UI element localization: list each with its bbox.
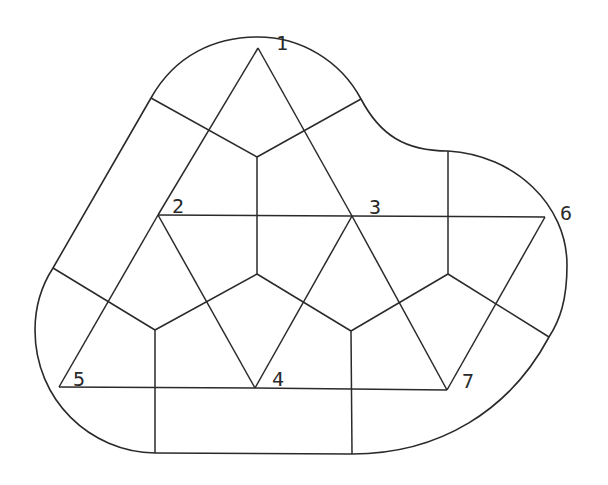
voronoi-edges [53, 98, 549, 454]
node-label-5: 5 [73, 367, 85, 391]
voronoi-boundary-edge-1 [257, 99, 361, 157]
delaunay-edge-2-3 [158, 215, 352, 216]
delaunay-edge-5-4 [59, 387, 255, 388]
node-label-2: 2 [172, 194, 184, 218]
node-label-7: 7 [462, 369, 474, 393]
node-label-6: 6 [560, 201, 572, 225]
voronoi-boundary-edge-6 [448, 274, 549, 337]
outer-boundary [35, 37, 567, 454]
node-label-1: 1 [276, 31, 288, 55]
node-label-4: 4 [272, 367, 284, 391]
node-label-3: 3 [369, 195, 381, 219]
voronoi-boundary-edge-4 [351, 331, 352, 454]
voronoi-boundary-edge-2 [53, 268, 155, 330]
delaunay-edge-1-3 [258, 48, 352, 216]
voronoi-edge-c-d [257, 274, 351, 331]
voronoi-boundary-edge-0 [151, 98, 257, 157]
delaunay-voronoi-diagram: 1 2 3 6 5 4 7 [0, 0, 608, 485]
delaunay-edge-1-2 [158, 48, 258, 215]
node-labels: 1 2 3 6 5 4 7 [73, 31, 572, 393]
delaunay-edges [59, 48, 545, 390]
voronoi-edge-d-e [351, 274, 448, 331]
voronoi-edge-c-b [155, 274, 257, 330]
